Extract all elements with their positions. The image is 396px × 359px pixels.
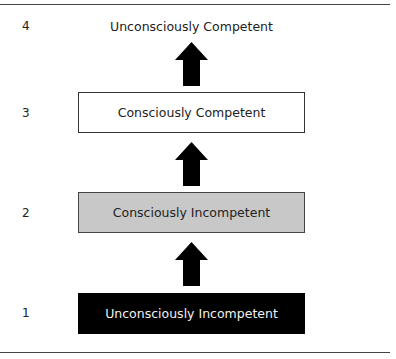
arrow-up-icon xyxy=(175,142,208,186)
level-1-label: Unconsciously Incompetent xyxy=(105,306,278,321)
level-1-number: 1 xyxy=(22,306,30,320)
level-2-box: Consciously Incompetent xyxy=(78,192,305,233)
level-3-box: Consciously Competent xyxy=(78,92,305,133)
level-3-label: Consciously Competent xyxy=(118,105,266,120)
level-4-number: 4 xyxy=(22,19,30,33)
arrow-up-icon xyxy=(175,242,208,286)
level-2-number: 2 xyxy=(22,206,30,220)
bottom-rule xyxy=(0,352,390,353)
level-4-label: Unconsciously Competent xyxy=(78,19,305,34)
top-rule xyxy=(0,4,390,5)
arrow-up-icon xyxy=(175,42,208,86)
level-2-label: Consciously Incompetent xyxy=(113,205,270,220)
level-3-number: 3 xyxy=(22,106,30,120)
level-1-box: Unconsciously Incompetent xyxy=(78,293,305,334)
